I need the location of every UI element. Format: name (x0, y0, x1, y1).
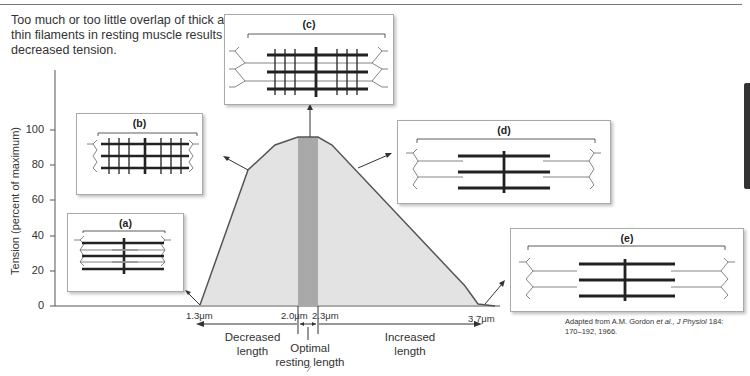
sarcomere-c-icon (225, 15, 393, 104)
x-tick-3-7: 3.7μm (468, 313, 495, 324)
sarcomere-d-icon (398, 121, 610, 203)
y-axis-label: Tension (percent of maximum) (9, 126, 21, 276)
y-tick-100: 100 (20, 123, 44, 135)
y-tick-40: 40 (20, 229, 44, 241)
sarcomere-b-icon (77, 114, 202, 194)
x-tick-2-0: 2.0μm (281, 310, 308, 321)
sarcomere-panel-e: (e) (510, 228, 744, 312)
source-credit: Adapted from A.M. Gordon et al., J Physi… (565, 317, 745, 337)
y-tick-60: 60 (20, 193, 44, 205)
y-tick-20: 20 (20, 264, 44, 276)
sarcomere-panel-c: (c) (224, 14, 394, 105)
region-optimal-resting-length: Optimal resting length (265, 341, 355, 369)
region-increased-length: Increased length (370, 330, 450, 358)
optimal-band (298, 137, 318, 305)
sarcomere-panel-b: (b) (76, 113, 203, 195)
y-tick-0: 0 (20, 299, 44, 311)
y-tick-80: 80 (20, 158, 44, 170)
x-tick-2-3: 2.3μm (312, 310, 339, 321)
x-tick-1-3: 1.3μm (186, 310, 213, 321)
sarcomere-e-icon (511, 229, 743, 311)
sarcomere-panel-d: (d) (397, 120, 611, 204)
sarcomere-panel-a: (a) (67, 213, 184, 292)
sarcomere-a-icon (68, 214, 183, 291)
